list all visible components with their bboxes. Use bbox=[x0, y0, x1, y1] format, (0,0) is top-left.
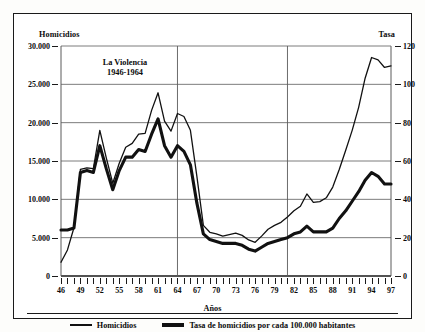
x-tick-label: 88 bbox=[329, 286, 337, 295]
chart-figure: Homicidios Tasa 05.00010.00015.00020.000… bbox=[0, 0, 425, 332]
legend-swatch-thin-line-icon bbox=[70, 324, 92, 325]
right-axis-title: Tasa bbox=[379, 30, 395, 39]
right-tick-mark bbox=[395, 199, 401, 200]
legend-divider bbox=[27, 313, 398, 314]
x-tick-label: 52 bbox=[96, 286, 104, 295]
left-tick-label: 15.000 bbox=[28, 157, 50, 166]
right-tick-mark bbox=[395, 161, 401, 162]
annotation-line-1: La Violencia bbox=[70, 58, 180, 68]
x-tick-mark bbox=[236, 278, 237, 284]
x-tick-mark bbox=[216, 278, 217, 284]
chart-frame: Homicidios Tasa 05.00010.00015.00020.000… bbox=[13, 13, 412, 319]
legend-item-1[interactable]: Homicidios bbox=[70, 321, 137, 330]
annotation-line-2: 1946-1964 bbox=[70, 68, 180, 78]
series-line-2 bbox=[61, 119, 391, 251]
x-tick-mark bbox=[80, 278, 81, 284]
x-tick-label: 76 bbox=[251, 286, 259, 295]
right-tick-label: 0 bbox=[403, 272, 407, 281]
x-tick-mark bbox=[249, 278, 250, 284]
left-tick-mark bbox=[52, 46, 58, 47]
left-axis-tick-labels: 05.00010.00015.00020.00025.00030.000 bbox=[14, 46, 58, 276]
x-tick-mark bbox=[74, 278, 75, 284]
left-axis-title: Homicidios bbox=[39, 30, 80, 39]
right-tick-mark bbox=[395, 238, 401, 239]
legend-label: Homicidios bbox=[97, 321, 137, 330]
x-tick-mark bbox=[359, 278, 360, 284]
x-tick-mark bbox=[268, 278, 269, 284]
left-tick-mark bbox=[52, 238, 58, 239]
x-tick-mark bbox=[391, 278, 392, 284]
x-tick-mark bbox=[100, 278, 101, 284]
x-tick-mark bbox=[190, 278, 191, 284]
x-tick-mark bbox=[262, 278, 263, 284]
plot-area bbox=[61, 46, 391, 276]
left-tick-label: 20.000 bbox=[28, 118, 50, 127]
x-tick-label: 85 bbox=[309, 286, 317, 295]
x-tick-mark bbox=[197, 278, 198, 284]
x-tick-mark bbox=[229, 278, 230, 284]
x-tick-mark bbox=[275, 278, 276, 284]
x-tick-label: 91 bbox=[348, 286, 356, 295]
left-tick-label: 25.000 bbox=[28, 80, 50, 89]
x-tick-label: 67 bbox=[193, 286, 201, 295]
left-tick-mark bbox=[52, 123, 58, 124]
left-tick-mark bbox=[52, 161, 58, 162]
x-tick-mark bbox=[184, 278, 185, 284]
x-tick-mark bbox=[300, 278, 301, 284]
left-tick-label: 30.000 bbox=[28, 42, 50, 51]
x-tick-mark bbox=[158, 278, 159, 284]
legend-swatch-thick-line-icon bbox=[162, 323, 184, 326]
left-tick-label: 5.000 bbox=[32, 233, 50, 242]
left-tick-label: 10.000 bbox=[28, 195, 50, 204]
legend-item-2[interactable]: Tasa de homicidios por cada 100.000 habi… bbox=[162, 321, 355, 330]
x-tick-mark bbox=[320, 278, 321, 284]
x-axis-title: Años bbox=[14, 304, 411, 313]
x-tick-label: 46 bbox=[57, 286, 65, 295]
right-tick-label: 60 bbox=[403, 157, 411, 166]
x-tick-mark bbox=[307, 278, 308, 284]
x-tick-label: 55 bbox=[115, 286, 123, 295]
x-tick-mark bbox=[352, 278, 353, 284]
x-tick-mark bbox=[165, 278, 166, 284]
right-tick-label: 20 bbox=[403, 233, 411, 242]
x-tick-mark bbox=[242, 278, 243, 284]
x-tick-label: 70 bbox=[212, 286, 220, 295]
right-axis-tick-labels: 020406080100120 bbox=[395, 46, 425, 276]
x-tick-mark bbox=[93, 278, 94, 284]
x-tick-mark bbox=[87, 278, 88, 284]
x-tick-mark bbox=[210, 278, 211, 284]
right-tick-label: 100 bbox=[403, 80, 415, 89]
x-tick-mark bbox=[385, 278, 386, 284]
x-tick-label: 79 bbox=[271, 286, 279, 295]
x-axis-tick-labels: 464952555861646770737679828588919497 bbox=[61, 278, 391, 300]
x-tick-label: 64 bbox=[173, 286, 181, 295]
x-tick-mark bbox=[372, 278, 373, 284]
x-tick-mark bbox=[67, 278, 68, 284]
x-tick-label: 97 bbox=[387, 286, 395, 295]
x-tick-mark bbox=[223, 278, 224, 284]
right-tick-label: 40 bbox=[403, 195, 411, 204]
chart-legend: HomicidiosTasa de homicidios por cada 10… bbox=[27, 317, 398, 332]
x-tick-label: 61 bbox=[154, 286, 162, 295]
x-tick-mark bbox=[294, 278, 295, 284]
x-tick-mark bbox=[126, 278, 127, 284]
right-tick-mark bbox=[395, 84, 401, 85]
x-tick-label: 49 bbox=[76, 286, 84, 295]
right-tick-mark bbox=[395, 276, 401, 277]
x-tick-mark bbox=[255, 278, 256, 284]
x-tick-mark bbox=[339, 278, 340, 284]
x-tick-label: 73 bbox=[232, 286, 240, 295]
x-tick-label: 82 bbox=[290, 286, 298, 295]
annotation-la-violencia: La Violencia 1946-1964 bbox=[70, 58, 180, 78]
x-tick-mark bbox=[313, 278, 314, 284]
x-tick-mark bbox=[145, 278, 146, 284]
x-tick-mark bbox=[171, 278, 172, 284]
x-tick-mark bbox=[281, 278, 282, 284]
x-tick-mark bbox=[132, 278, 133, 284]
right-tick-label: 120 bbox=[403, 42, 415, 51]
x-tick-mark bbox=[61, 278, 62, 284]
x-tick-mark bbox=[326, 278, 327, 284]
right-tick-mark bbox=[395, 123, 401, 124]
right-tick-label: 80 bbox=[403, 118, 411, 127]
x-tick-mark bbox=[139, 278, 140, 284]
